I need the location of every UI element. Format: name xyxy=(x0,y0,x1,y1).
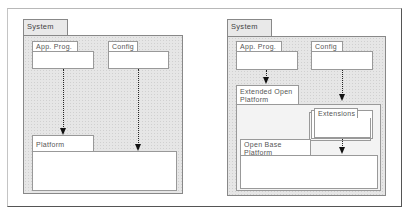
left-system-tab: System xyxy=(23,19,68,36)
right-app-prog-box xyxy=(236,51,298,70)
right-base-platform-label: Open Base Platform xyxy=(244,141,282,156)
left-platform-tab: Platform xyxy=(32,135,94,152)
right-config-to-extensions-arrowhead-icon xyxy=(339,94,345,101)
right-base-platform-box xyxy=(240,155,378,189)
left-app-prog-box xyxy=(32,51,94,69)
left-config-to-platform-arrowhead-icon xyxy=(135,144,141,151)
left-platform-box xyxy=(32,151,177,191)
right-app-to-extended-arrowhead-icon xyxy=(263,77,269,84)
right-app-prog-label: App. Prog. xyxy=(240,43,276,50)
right-extensions-to-base-arrowhead-icon xyxy=(339,147,345,154)
right-extensions-label: Extensions xyxy=(318,110,355,117)
right-extended-platform-tab: Extended Open Platform xyxy=(236,85,299,105)
left-app-to-platform-arrow-line xyxy=(63,69,64,129)
right-system-tab: System xyxy=(227,19,272,36)
right-config-label: Config xyxy=(315,43,337,50)
left-config-to-platform-arrow-line xyxy=(138,69,139,145)
right-base-platform-tab: Open Base Platform xyxy=(240,139,311,156)
right-config-box xyxy=(311,51,373,70)
left-app-to-platform-arrowhead-icon xyxy=(60,128,66,135)
right-extensions-box xyxy=(314,118,371,138)
left-system-label: System xyxy=(27,22,54,31)
left-app-prog-label: App. Prog. xyxy=(36,43,72,50)
right-extended-platform-label: Extended Open Platform xyxy=(240,88,293,103)
left-platform-label: Platform xyxy=(36,141,64,148)
right-config-to-extensions-arrow-line xyxy=(342,70,343,95)
left-config-label: Config xyxy=(112,43,134,50)
right-system-label: System xyxy=(231,22,258,31)
left-config-box xyxy=(108,51,169,69)
